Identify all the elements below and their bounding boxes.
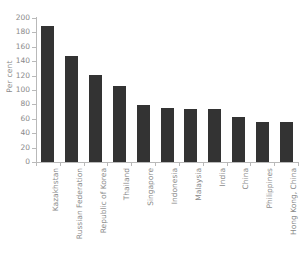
y-tick-mark — [32, 104, 36, 105]
bar — [232, 117, 245, 162]
y-tick-mark — [32, 133, 36, 134]
bar — [208, 109, 221, 162]
x-tick-mark — [298, 162, 299, 166]
y-tick-mark — [32, 162, 36, 163]
y-tick-mark — [32, 32, 36, 33]
y-tick-label: 100 — [2, 86, 30, 94]
x-tick-mark — [274, 162, 275, 166]
x-tick-mark — [60, 162, 61, 166]
x-category-label-text: Russian Federation — [76, 168, 84, 239]
x-category-label-text: China — [242, 168, 250, 189]
bar — [89, 75, 102, 162]
bar — [184, 109, 197, 162]
y-tick-label: 80 — [2, 100, 30, 108]
x-tick-mark — [36, 162, 37, 166]
x-category-label: Russian Federation — [65, 168, 78, 256]
x-category-label-text: India — [219, 168, 227, 186]
x-category-label: Malaysia — [184, 168, 197, 256]
bar — [280, 122, 293, 162]
x-category-label: Philippines — [256, 168, 269, 256]
x-category-label: Thailand — [113, 168, 126, 256]
x-tick-mark — [179, 162, 180, 166]
bar — [161, 108, 174, 162]
x-category-label-text: Singapore — [147, 168, 155, 206]
x-category-label-text: Kazakhstan — [52, 168, 60, 211]
y-tick-mark — [32, 61, 36, 62]
x-tick-mark — [250, 162, 251, 166]
x-category-label: Hong Kong, China — [280, 168, 293, 256]
x-category-label-text: Malaysia — [195, 168, 203, 201]
y-tick-mark — [32, 90, 36, 91]
x-category-label: India — [208, 168, 221, 256]
x-tick-mark — [203, 162, 204, 166]
x-tick-mark — [227, 162, 228, 166]
x-tick-mark — [155, 162, 156, 166]
y-tick-label: 140 — [2, 57, 30, 65]
bar — [41, 26, 54, 162]
bar — [113, 86, 126, 162]
y-axis-line — [36, 17, 37, 163]
y-tick-mark — [32, 18, 36, 19]
bar — [137, 105, 150, 162]
x-category-label-text: Thailand — [123, 168, 131, 200]
y-tick-mark — [32, 76, 36, 77]
x-axis-line — [36, 162, 298, 163]
bar-chart: Per cent 020406080100120140160180200 Kaz… — [0, 0, 304, 259]
x-category-label-text: Indonesia — [171, 168, 179, 204]
x-category-label: Singapore — [137, 168, 150, 256]
x-category-label-text: Hong Kong, China — [290, 168, 298, 235]
bar — [256, 122, 269, 162]
y-tick-label: 60 — [2, 115, 30, 123]
y-axis-ticks: 020406080100120140160180200 — [0, 0, 30, 259]
x-category-label: Kazakhstan — [41, 168, 54, 256]
y-tick-label: 120 — [2, 72, 30, 80]
x-category-label-text: Philippines — [266, 168, 274, 208]
y-tick-label: 180 — [2, 28, 30, 36]
y-tick-label: 160 — [2, 43, 30, 51]
y-tick-label: 200 — [2, 14, 30, 22]
x-tick-mark — [131, 162, 132, 166]
x-tick-mark — [84, 162, 85, 166]
y-tick-label: 20 — [2, 144, 30, 152]
y-tick-label: 40 — [2, 129, 30, 137]
x-category-label: Indonesia — [161, 168, 174, 256]
y-tick-mark — [32, 47, 36, 48]
y-tick-mark — [32, 148, 36, 149]
x-tick-mark — [107, 162, 108, 166]
x-category-label: China — [232, 168, 245, 256]
y-tick-label: 0 — [2, 158, 30, 166]
y-tick-mark — [32, 119, 36, 120]
bar — [65, 56, 78, 162]
x-category-label-text: Republic of Korea — [100, 168, 108, 233]
x-category-label: Republic of Korea — [89, 168, 102, 256]
